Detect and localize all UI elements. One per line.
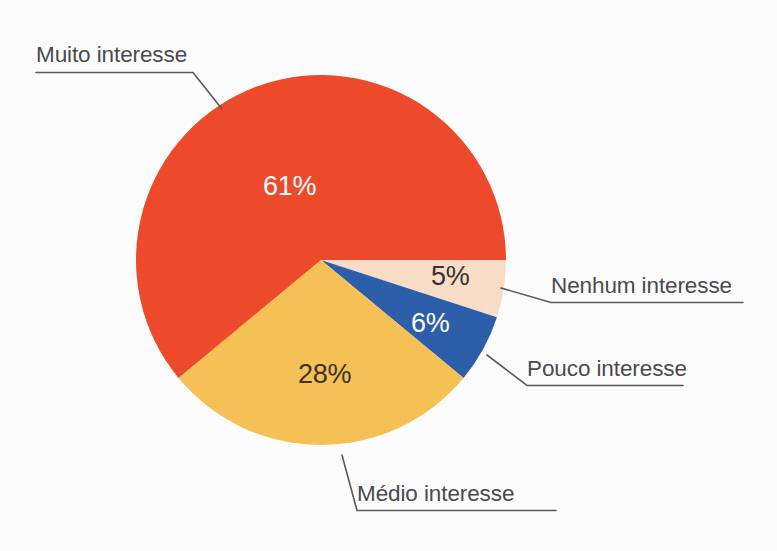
leader-line-muito-interesse (36, 73, 222, 110)
callout-label-pouco-interesse: Pouco interesse (527, 358, 687, 381)
callout-label-muito-interesse: Muito interesse (36, 44, 187, 67)
pie-slices (136, 75, 506, 445)
slice-value-pouco-interesse: 6% (411, 310, 449, 337)
callout-label-medio-interesse: Médio interesse (357, 483, 514, 506)
pie-chart-figure: 61% 28% 6% 5% Muito interesse Nenhum int… (0, 0, 777, 551)
slice-value-nenhum-interesse: 5% (431, 263, 469, 290)
slice-value-muito-interesse: 61% (263, 173, 316, 200)
callout-label-nenhum-interesse: Nenhum interesse (551, 275, 732, 298)
slice-value-medio-interesse: 28% (298, 361, 351, 388)
